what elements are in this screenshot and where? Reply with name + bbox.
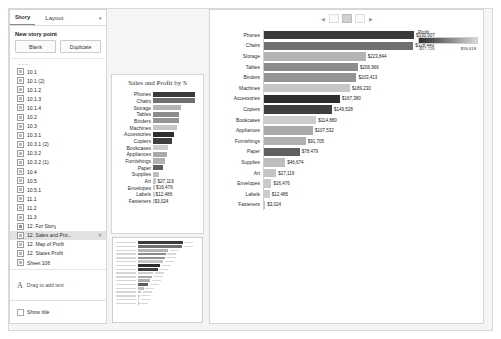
- thumbnail-bar-row: [116, 275, 199, 278]
- chevron-left-icon[interactable]: ◀: [320, 16, 326, 22]
- show-title-checkbox[interactable]: [17, 309, 24, 316]
- chart-bar[interactable]: [264, 126, 313, 134]
- story-point-item[interactable]: 10.1.3: [10, 94, 106, 103]
- thumbnail-category-placeholder: [116, 242, 136, 243]
- story-point-list[interactable]: ––– 10.110.1 (2)10.1.210.1.310.1.410.210…: [10, 59, 106, 269]
- chart-category-label: Chairs: [214, 43, 263, 48]
- chart-bar-row[interactable]: Art$27,119: [214, 168, 479, 179]
- chart-bar-row[interactable]: Tables$206,966: [214, 62, 479, 73]
- chart-bar-row[interactable]: Appliances$107,532: [214, 125, 479, 136]
- chart-bar-row[interactable]: Fasteners$3,024: [214, 200, 479, 211]
- story-point-label: Sheet 106: [27, 260, 50, 266]
- thumbnail-bar: [138, 241, 183, 244]
- chart-bar-row[interactable]: Paper$78,479: [214, 147, 479, 158]
- chevron-down-icon[interactable]: ▾: [99, 10, 106, 25]
- story-point-item[interactable]: 10.5: [10, 176, 106, 185]
- story-point-item[interactable]: 10.3.2: [10, 149, 106, 158]
- story-point-item[interactable]: 11.1: [10, 194, 106, 203]
- chart-bar[interactable]: [264, 116, 316, 124]
- tab-story[interactable]: Story: [10, 10, 35, 25]
- preview-category-label: Labels: [115, 191, 153, 197]
- chart-bar[interactable]: [264, 73, 356, 81]
- chart-bar[interactable]: [264, 31, 414, 39]
- chart-bar[interactable]: [264, 84, 350, 92]
- preview-category-label: Copiers: [115, 138, 153, 144]
- story-point-item[interactable]: 11.3: [10, 213, 106, 222]
- chart-bar[interactable]: [264, 137, 306, 145]
- chart-bar-row[interactable]: Copiers$149,528: [214, 104, 479, 115]
- story-nav-dot[interactable]: [329, 14, 339, 23]
- thumbnail-bar: [138, 249, 169, 252]
- chart-bar-row[interactable]: Labels$12,486: [214, 189, 479, 200]
- story-point-thumb-icon: [17, 204, 24, 211]
- chart-bar[interactable]: [264, 42, 413, 50]
- story-point-item[interactable]: 10.3.1: [10, 131, 106, 140]
- story-point-item[interactable]: 10.3: [10, 122, 106, 131]
- screenshot-root: Story Layout ▾ New story point Blank Dup…: [0, 0, 501, 339]
- tab-layout[interactable]: Layout: [35, 10, 68, 25]
- chart-bar-row[interactable]: Storage$223,844: [214, 51, 479, 62]
- chart-bar-row[interactable]: Envelopes$16,476: [214, 178, 479, 189]
- chart-value-label: $206,966: [358, 65, 379, 70]
- chart-bar-row[interactable]: Supplies$46,674: [214, 157, 479, 168]
- story-point-thumbnail[interactable]: [112, 237, 203, 323]
- blank-button[interactable]: Blank: [15, 40, 56, 53]
- preview-bar-row: Labels$12,486: [115, 191, 200, 197]
- story-point-item[interactable]: 12. Map of Profit: [10, 240, 106, 249]
- story-point-item[interactable]: 10.1: [10, 67, 106, 76]
- thumbnail-value-placeholder: [152, 280, 161, 281]
- duplicate-button[interactable]: Duplicate: [60, 40, 101, 53]
- preview-category-label: Phones: [115, 91, 153, 97]
- preview-category-label: Tables: [115, 111, 153, 117]
- story-point-item[interactable]: 11.2: [10, 203, 106, 212]
- chart-bar[interactable]: [264, 179, 271, 187]
- story-point-thumb-icon: [17, 241, 24, 248]
- preview-bar-track: [153, 138, 200, 144]
- chart-category-label: Appliances: [214, 128, 263, 133]
- story-point-item[interactable]: 10.1.2: [10, 85, 106, 94]
- preview-bar: [153, 98, 195, 103]
- story-point-item[interactable]: 10.1 (2): [10, 76, 106, 85]
- drag-to-add-text[interactable]: A Drag to add text: [10, 269, 106, 300]
- chart-bar-row[interactable]: Accessories$167,380: [214, 94, 479, 105]
- story-point-item[interactable]: 10.2: [10, 112, 106, 121]
- story-nav-dot[interactable]: [355, 14, 365, 23]
- chart-bar[interactable]: [264, 148, 300, 156]
- chart-bar[interactable]: [264, 95, 340, 103]
- story-point-thumb-icon: [17, 95, 24, 102]
- chart-bar-track: $114,880: [263, 115, 479, 126]
- chart-bar-row[interactable]: Binders$203,413: [214, 72, 479, 83]
- chart-bar-track: $91,705: [263, 136, 479, 147]
- chart-bar-track: $12,486: [263, 189, 479, 200]
- chart-category-label: Copiers: [214, 107, 263, 112]
- story-point-item[interactable]: 12. Sales and Pro...✕: [10, 231, 106, 240]
- chart-bar[interactable]: [264, 169, 276, 177]
- thumbnail-bar-row: [116, 252, 199, 255]
- close-icon[interactable]: ✕: [98, 233, 106, 238]
- story-point-item[interactable]: 10.5.1: [10, 185, 106, 194]
- chart-bar[interactable]: [264, 158, 285, 166]
- thumbnail-value-placeholder: [167, 253, 176, 254]
- chart-bar[interactable]: [264, 63, 358, 71]
- story-point-item[interactable]: 12. States Profit: [10, 249, 106, 258]
- story-point-item[interactable]: 12. For Story: [10, 222, 106, 231]
- legend-title: Profit: [418, 30, 480, 35]
- story-point-item[interactable]: 10.1.4: [10, 103, 106, 112]
- chart-bar[interactable]: [264, 52, 366, 60]
- story-point-preview-card[interactable]: Sales and Profit by S PhonesChairsStorag…: [111, 74, 204, 234]
- chart-bar-row[interactable]: Machines$189,230: [214, 83, 479, 94]
- chevron-right-icon[interactable]: ▶: [368, 16, 374, 22]
- show-title-row[interactable]: Show title: [10, 300, 106, 323]
- story-point-item[interactable]: 10.3.1 (2): [10, 140, 106, 149]
- thumbnail-category-placeholder: [116, 261, 136, 262]
- chart-bar[interactable]: [264, 105, 332, 113]
- story-point-item[interactable]: 10.4: [10, 167, 106, 176]
- story-point-item[interactable]: 10.3.2 (1): [10, 158, 106, 167]
- story-nav-dot-active[interactable]: [342, 14, 352, 23]
- preview-bar-row: Accessories: [115, 131, 200, 137]
- story-point-item[interactable]: Sheet 106: [10, 258, 106, 267]
- chart-value-label: $3,024: [265, 202, 281, 207]
- chart-bar-row[interactable]: Bookcases$114,880: [214, 115, 479, 126]
- chart-bar-row[interactable]: Furnishings$91,705: [214, 136, 479, 147]
- story-point-label: 12. For Story: [27, 223, 56, 229]
